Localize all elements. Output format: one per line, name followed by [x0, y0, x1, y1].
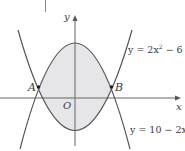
x-axis-label: x	[176, 102, 182, 112]
equation-label-lower: y = 10 − 2x2	[130, 124, 185, 135]
point-b-label: B	[115, 82, 123, 93]
equation-lower-prefix: y = 10 − 2x	[130, 124, 185, 135]
point-a-marker	[37, 85, 41, 89]
point-b-marker	[110, 85, 114, 89]
point-a-label: A	[28, 82, 36, 93]
equation-upper-suffix: − 6	[163, 44, 183, 55]
y-axis-label: y	[64, 12, 70, 22]
origin-label: O	[63, 101, 71, 111]
y-axis-arrow-icon	[73, 15, 78, 21]
x-axis-arrow-icon	[175, 96, 181, 101]
equation-upper-prefix: y = 2x	[128, 44, 159, 55]
equation-label-upper: y = 2x2 − 6	[128, 44, 183, 55]
